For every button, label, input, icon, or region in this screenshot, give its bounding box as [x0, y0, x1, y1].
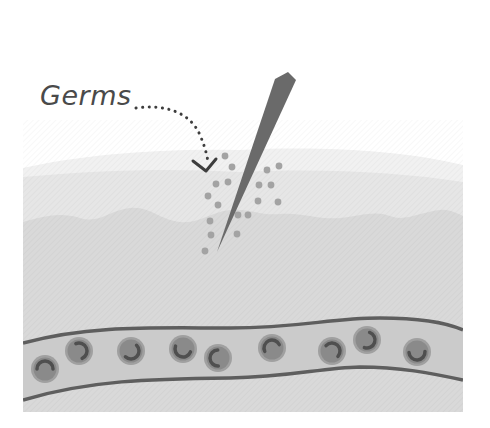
germ-dot — [207, 218, 214, 225]
germ-dot — [225, 179, 232, 186]
germ-dot — [245, 212, 252, 219]
germ-dot — [268, 182, 275, 189]
skin-injection-illustration: Germs — [0, 0, 490, 428]
germ-dot — [276, 163, 283, 170]
blood-cell — [318, 337, 346, 365]
germ-dot — [205, 193, 212, 200]
germ-dot — [264, 167, 271, 174]
germ-dot — [222, 153, 229, 160]
germ-dot — [215, 202, 222, 209]
germ-dot — [202, 248, 209, 255]
blood-cell — [117, 337, 145, 365]
germs-label: Germs — [40, 80, 132, 111]
blood-cell — [31, 355, 59, 383]
blood-cell — [403, 338, 431, 366]
germ-dot — [229, 164, 236, 171]
illustration-canvas — [0, 0, 490, 428]
blood-cell — [65, 337, 93, 365]
germ-dot — [208, 232, 215, 239]
blood-cell — [353, 326, 381, 354]
germ-dot — [275, 199, 282, 206]
blood-cell — [169, 335, 197, 363]
germ-dot — [234, 231, 241, 238]
blood-cell — [258, 334, 286, 362]
germ-dot — [255, 198, 262, 205]
skin-layers — [23, 120, 463, 412]
germ-dot — [256, 182, 263, 189]
blood-cell — [204, 344, 232, 372]
germ-dot — [213, 181, 220, 188]
germ-dot — [235, 212, 242, 219]
